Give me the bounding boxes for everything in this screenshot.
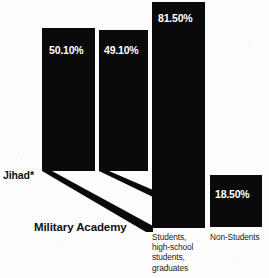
label-military-academy: Military Academy xyxy=(34,222,127,234)
bar-value-jihad: 50.10% xyxy=(49,45,83,56)
connector-military-to-students xyxy=(99,171,153,197)
category-label-non-students: Non-Students xyxy=(210,232,268,242)
category-label-students: Students, high-school students, graduate… xyxy=(152,232,206,273)
label-jihad: Jihad* xyxy=(3,170,34,181)
bar-value-non-students: 18.50% xyxy=(215,189,249,200)
bar-students xyxy=(152,2,205,228)
bar-value-students: 81.50% xyxy=(158,13,192,24)
bar-value-military-academy: 49.10% xyxy=(104,45,138,56)
bar-chart: 50.10% 49.10% 81.50% 18.50% Jihad* Milit… xyxy=(0,0,269,278)
bar-non-students xyxy=(210,175,262,227)
